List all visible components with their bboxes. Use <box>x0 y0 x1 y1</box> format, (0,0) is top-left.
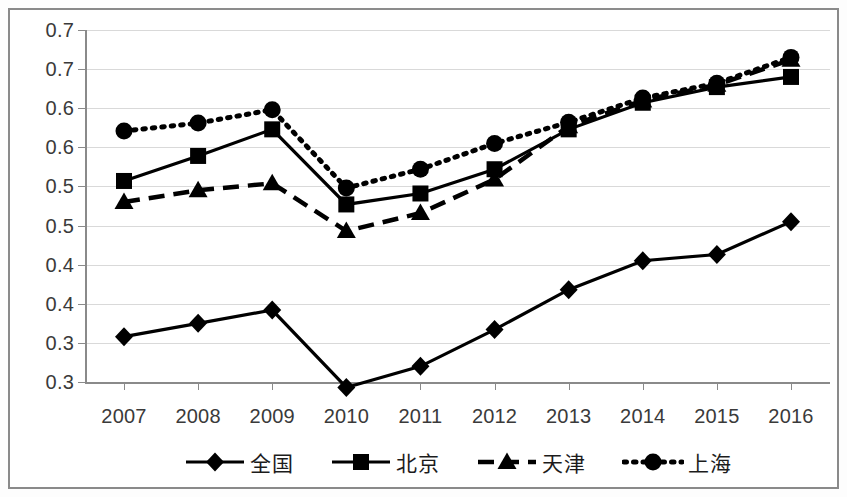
x-axis-tick-mark <box>717 382 718 390</box>
y-axis-tick-mark <box>78 108 85 109</box>
data-point-marker <box>782 212 800 231</box>
x-axis-tick-label: 2013 <box>546 405 591 428</box>
plot-area: 0.70.70.60.60.50.50.40.40.30.3 200720082… <box>85 30 830 382</box>
x-axis-tick-mark <box>791 382 792 390</box>
x-axis-tick-label: 2009 <box>250 405 295 428</box>
y-axis-tick-mark <box>78 147 85 148</box>
legend-item-2[interactable]: 北京 <box>330 447 440 477</box>
y-axis-tick-label: 0.7 <box>46 58 74 81</box>
y-axis-tick-mark <box>78 30 85 31</box>
x-axis-tick-mark <box>272 382 273 390</box>
y-axis-tick-label: 0.4 <box>46 292 74 315</box>
data-point-marker <box>560 114 577 131</box>
x-axis-line <box>85 382 830 384</box>
data-point-marker <box>337 222 356 239</box>
y-axis-tick-mark <box>78 69 85 70</box>
data-point-marker <box>411 357 429 376</box>
data-point-marker <box>190 148 206 164</box>
diamond-marker-icon <box>184 451 246 473</box>
y-axis-tick-mark <box>78 265 85 266</box>
x-axis-tick-label: 2007 <box>101 405 146 428</box>
legend-item-4[interactable]: 上海 <box>622 447 732 477</box>
y-axis-tick-label: 0.7 <box>46 19 74 42</box>
y-axis-tick-label: 0.3 <box>46 331 74 354</box>
x-axis-tick-label: 2008 <box>175 405 220 428</box>
x-axis-tick-mark <box>198 382 199 390</box>
x-axis-tick-mark <box>569 382 570 390</box>
data-point-marker <box>263 174 282 191</box>
y-axis-tick-label: 0.5 <box>46 175 74 198</box>
data-point-marker <box>486 135 503 152</box>
y-axis-tick-mark <box>78 382 85 383</box>
x-axis-tick-label: 2012 <box>472 405 517 428</box>
data-point-marker <box>264 121 280 137</box>
y-axis-tick-label: 0.5 <box>46 214 74 237</box>
data-point-marker <box>634 251 652 270</box>
x-axis-tick-label: 2010 <box>324 405 369 428</box>
x-axis-tick-label: 2011 <box>399 405 443 428</box>
series-4 <box>116 49 800 197</box>
data-point-marker <box>338 196 354 212</box>
data-point-marker <box>115 327 133 346</box>
y-axis-tick-mark <box>78 226 85 227</box>
y-axis-tick-label: 0.3 <box>46 371 74 394</box>
data-point-marker <box>783 69 799 85</box>
triangle-marker-icon <box>476 451 538 473</box>
series-line <box>124 77 791 205</box>
series-line <box>124 57 791 188</box>
y-axis-tick-label: 0.6 <box>46 97 74 120</box>
series-2 <box>116 69 799 213</box>
x-axis-tick-label: 2016 <box>768 405 813 428</box>
data-point-marker <box>264 101 281 118</box>
y-axis-tick-label: 0.4 <box>46 253 74 276</box>
data-point-marker <box>708 75 725 92</box>
square-marker-icon <box>330 451 392 473</box>
x-axis-tick-label: 2015 <box>694 405 739 428</box>
legend-item-3[interactable]: 天津 <box>476 447 586 477</box>
series-line <box>124 222 791 388</box>
circle-marker-icon <box>622 451 684 473</box>
y-axis-tick-mark <box>78 304 85 305</box>
data-point-marker <box>412 185 428 201</box>
y-axis-tick-mark <box>78 186 85 187</box>
data-point-marker <box>190 115 207 132</box>
legend-item-label: 上海 <box>688 447 732 477</box>
data-point-marker <box>412 161 429 178</box>
legend-item-label: 天津 <box>542 447 586 477</box>
legend-item-label: 全国 <box>250 447 294 477</box>
x-axis-tick-mark <box>643 382 644 390</box>
data-point-marker <box>338 180 355 197</box>
data-point-marker <box>560 280 578 299</box>
x-axis-tick-label: 2014 <box>620 405 665 428</box>
x-axis-tick-mark <box>124 382 125 390</box>
data-point-marker <box>486 320 504 339</box>
legend-item-label: 北京 <box>396 447 440 477</box>
data-point-marker <box>411 204 430 221</box>
chart-legend: 全国北京天津上海 <box>85 442 830 482</box>
data-point-marker <box>708 245 726 264</box>
y-axis-tick-mark <box>78 343 85 344</box>
y-axis-tick-label: 0.6 <box>46 136 74 159</box>
chart-figure: 0.70.70.60.60.50.50.40.40.30.3 200720082… <box>0 0 847 497</box>
series-layer <box>85 30 830 382</box>
x-axis-tick-mark <box>495 382 496 390</box>
data-point-marker <box>634 90 651 107</box>
series-1 <box>115 212 800 397</box>
data-point-marker <box>116 122 133 139</box>
series-3 <box>115 50 801 238</box>
x-axis-tick-mark <box>420 382 421 390</box>
legend-item-1[interactable]: 全国 <box>184 447 294 477</box>
data-point-marker <box>116 173 132 189</box>
data-point-marker <box>189 314 207 333</box>
data-point-marker <box>783 49 800 66</box>
